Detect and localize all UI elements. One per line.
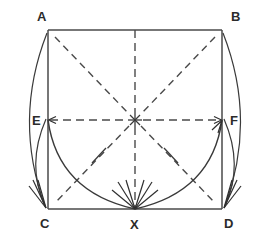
dashed-diagonals-lower	[55, 126, 215, 203]
vertex-label-a: A	[37, 9, 47, 24]
tick-mark-arc-x-f	[164, 148, 178, 163]
dashed-line-a-to-center	[55, 37, 129, 114]
tick-mark-arc-e-x	[92, 148, 106, 163]
dashed-line-b-to-center	[141, 37, 215, 114]
center-point-asterisk-icon	[128, 113, 142, 127]
vertex-label-e: E	[32, 113, 41, 128]
vertex-label-d: D	[224, 216, 233, 231]
vertex-label-f: F	[230, 113, 238, 128]
geometry-diagram: A B C D E F X	[0, 0, 253, 241]
vertex-label-b: B	[231, 9, 240, 24]
vertex-label-x: X	[130, 217, 139, 232]
diagram-canvas: A B C D E F X	[0, 0, 253, 241]
vertex-label-c: C	[40, 216, 50, 231]
